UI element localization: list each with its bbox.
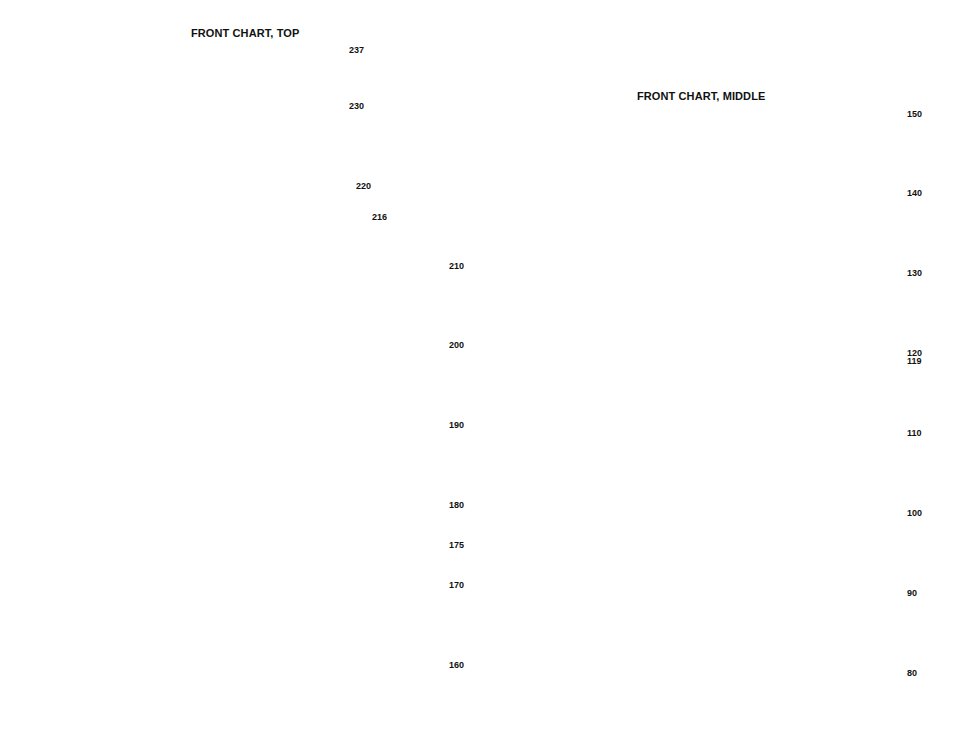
row-number-label: 220 bbox=[356, 181, 371, 191]
row-number-label: 130 bbox=[907, 268, 922, 278]
row-number-label: 90 bbox=[907, 588, 917, 598]
row-number-label: 100 bbox=[907, 508, 922, 518]
row-number-label: 200 bbox=[449, 340, 464, 350]
row-number-label: 150 bbox=[907, 109, 922, 119]
row-number-label: 237 bbox=[349, 45, 364, 55]
row-number-label: 119 bbox=[907, 356, 922, 366]
knitting-charts-canvas bbox=[0, 0, 953, 741]
row-number-label: 180 bbox=[449, 500, 464, 510]
row-number-label: 190 bbox=[449, 420, 464, 430]
row-number-label: 160 bbox=[449, 660, 464, 670]
row-number-label: 216 bbox=[372, 212, 387, 222]
row-number-label: 230 bbox=[349, 101, 364, 111]
row-number-label: 210 bbox=[449, 261, 464, 271]
row-number-label: 140 bbox=[907, 188, 922, 198]
row-number-label: 175 bbox=[449, 540, 464, 550]
row-number-label: 80 bbox=[907, 668, 917, 678]
row-number-label: 170 bbox=[449, 580, 464, 590]
row-number-label: 110 bbox=[907, 428, 922, 438]
